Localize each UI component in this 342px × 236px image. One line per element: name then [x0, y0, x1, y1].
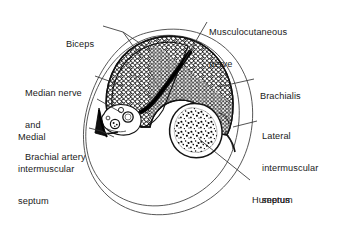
- label-medial-intermuscular-septum: Medial intermuscular septum: [18, 111, 74, 228]
- label-humerus: Humerus: [252, 174, 290, 227]
- leader-biceps-stem: [103, 26, 123, 32]
- label-median-nerve-line-0: Median nerve: [25, 88, 86, 99]
- label-brachialis-line-0: Brachialis: [260, 91, 301, 102]
- label-medial-septum-line-2: septum: [18, 196, 74, 207]
- label-musculocutaneous-nerve-line-1: nerve: [209, 59, 287, 70]
- label-medial-septum-line-0: Medial: [18, 132, 74, 143]
- median-nerve-bundle: [110, 119, 119, 128]
- label-humerus-line-0: Humerus: [252, 195, 290, 206]
- diagram-page: Biceps Musculocutaneous nerve Median ner…: [0, 0, 342, 236]
- label-musculocutaneous-nerve-line-0: Musculocutaneous: [209, 27, 287, 38]
- label-lateral-septum-line-1: intermuscular: [262, 163, 318, 174]
- label-biceps: Biceps: [66, 18, 94, 71]
- label-biceps-line-0: Biceps: [66, 39, 94, 50]
- label-medial-septum-line-1: intermuscular: [18, 164, 74, 175]
- label-lateral-septum-line-0: Lateral: [262, 131, 318, 142]
